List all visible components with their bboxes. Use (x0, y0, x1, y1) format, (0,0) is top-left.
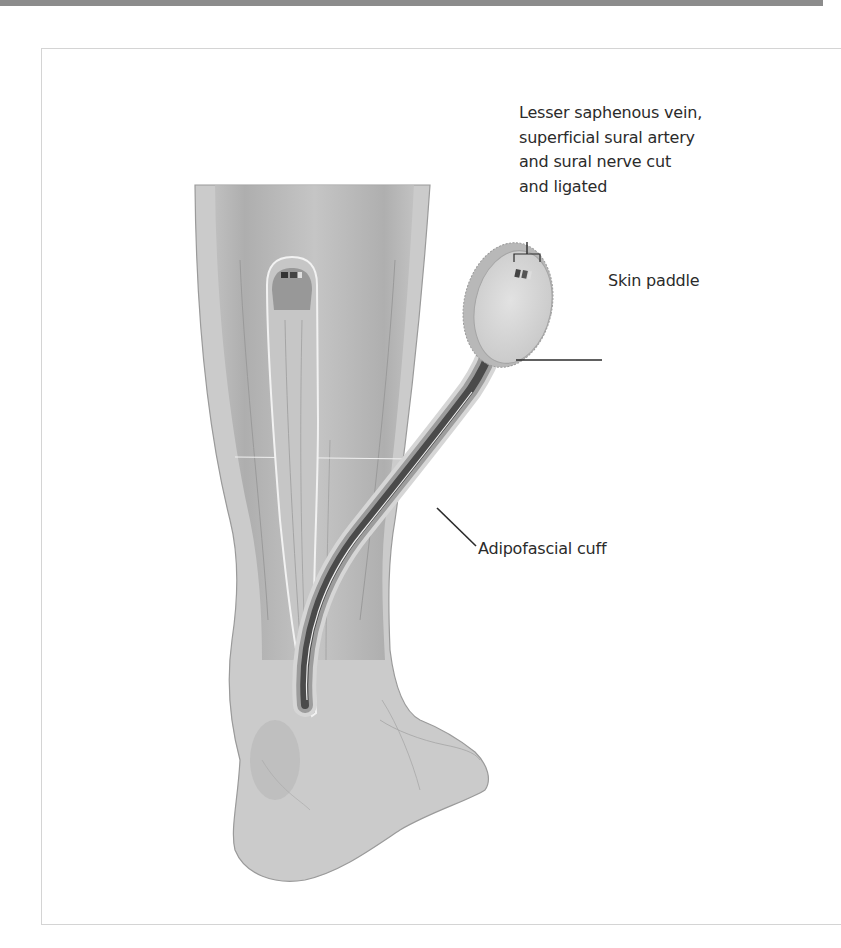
label-line: superficial sural artery (519, 126, 719, 151)
label-vessels-cut-ligated: Lesser saphenous vein, superficial sural… (519, 101, 719, 199)
lower-leg (190, 178, 488, 881)
label-line: and sural nerve cut (519, 150, 719, 175)
skin-paddle (452, 234, 564, 376)
label-adipofascial-cuff: Adipofascial cuff (478, 537, 606, 562)
label-skin-paddle: Skin paddle (608, 269, 699, 294)
label-line: Lesser saphenous vein, (519, 101, 719, 126)
label-line: and ligated (519, 175, 719, 200)
